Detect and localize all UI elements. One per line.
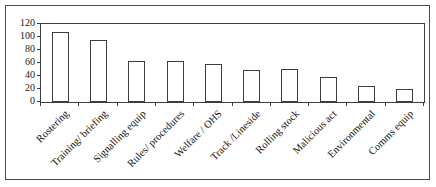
bar-rostering <box>52 32 69 102</box>
x-tick-mark <box>155 103 156 106</box>
y-tick-label-40: 40 <box>7 70 35 80</box>
bar-environmental <box>358 86 375 102</box>
plot-area <box>40 23 425 103</box>
y-tick-label-100: 100 <box>7 31 35 41</box>
x-tick-mark <box>270 103 271 106</box>
y-tick-label-120: 120 <box>7 18 35 28</box>
screenshot-root: { "chart_data": { "type": "bar", "title"… <box>0 0 436 187</box>
x-tick-mark <box>78 103 79 106</box>
x-axis-label: Rostering <box>34 108 71 145</box>
x-tick-mark <box>40 103 41 106</box>
y-tick-label-20: 20 <box>7 83 35 93</box>
x-tick-mark <box>117 103 118 106</box>
bar-malicious-act <box>320 77 337 102</box>
x-tick-mark <box>385 103 386 106</box>
bar-rules-procedures <box>167 61 184 102</box>
chart-frame: 020406080100120 RosteringTraining/ brief… <box>5 5 430 180</box>
x-tick-mark <box>423 103 424 106</box>
bar-comms-equip <box>396 89 413 102</box>
x-tick-mark <box>193 103 194 106</box>
y-tick-label-0: 0 <box>7 96 35 106</box>
y-tick-label-60: 60 <box>7 57 35 67</box>
x-tick-mark <box>232 103 233 106</box>
bar-welfare-ohs <box>205 64 222 102</box>
y-tick-label-80: 80 <box>7 44 35 54</box>
bar-signalling-equip <box>128 61 145 102</box>
bar-training-briefing <box>90 40 107 102</box>
bar-rolling-stock <box>281 69 298 102</box>
x-tick-mark <box>308 103 309 106</box>
x-tick-mark <box>346 103 347 106</box>
bar-track-lineside <box>243 70 260 102</box>
